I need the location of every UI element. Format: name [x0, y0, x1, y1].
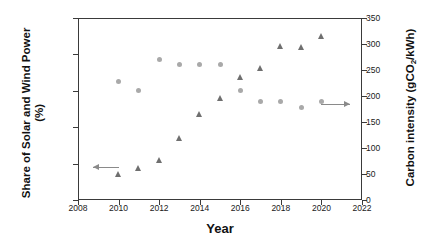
y-axis-left-tickmark — [73, 127, 78, 128]
x-axis-title: Year — [78, 222, 362, 237]
y-axis-right-tick-label: 300 — [366, 39, 406, 49]
x-axis-tickmark — [159, 200, 160, 205]
y-axis-right-tickmark — [362, 18, 367, 19]
y-axis-right-tickmark — [362, 96, 367, 97]
y-axis-right-tickmark — [362, 44, 367, 45]
data-point-triangle — [156, 157, 162, 163]
y-axis-left-title-line1: Share of Solar and Wind Power — [20, 28, 32, 199]
y-axis-right-tickmark — [362, 70, 367, 71]
x-axis-tickmark — [321, 200, 322, 205]
data-point-triangle — [318, 33, 324, 39]
right-axis-pointer-head — [344, 101, 350, 107]
data-point-triangle — [196, 111, 202, 117]
y-axis-left-tickmark — [73, 164, 78, 165]
y-axis-left-title-line2: (%) — [33, 18, 46, 208]
data-point-circle — [116, 79, 121, 84]
left-axis-pointer-head — [93, 164, 99, 170]
y-axis-right-title-subscript: 2 — [409, 60, 418, 64]
data-point-circle — [299, 105, 304, 110]
data-point-triangle — [257, 65, 263, 71]
data-point-triangle — [135, 165, 141, 171]
y-axis-right-tick-label: 200 — [366, 91, 406, 101]
data-point-triangle — [277, 43, 283, 49]
y-axis-left-tickmark — [73, 54, 78, 55]
data-point-triangle — [115, 171, 121, 177]
x-axis-tickmark — [119, 200, 120, 205]
y-axis-left-tickmark — [73, 91, 78, 92]
x-axis-tickmark — [281, 200, 282, 205]
y-axis-left-title: Share of Solar and Wind Power (%) — [20, 18, 46, 208]
y-axis-left-tickmark — [73, 18, 78, 19]
y-axis-right-tick-label: 150 — [366, 117, 406, 127]
data-point-triangle — [176, 135, 182, 141]
data-point-triangle — [217, 95, 223, 101]
data-point-triangle — [298, 44, 304, 50]
data-point-triangle — [237, 74, 243, 80]
y-axis-right-tick-label: 250 — [366, 65, 406, 75]
y-axis-right-tickmark — [362, 148, 367, 149]
y-axis-right-tickmark — [362, 174, 367, 175]
x-axis-tickmark — [240, 200, 241, 205]
data-point-circle — [218, 62, 223, 67]
y-axis-right-tick-label: 50 — [366, 169, 406, 179]
chart-figure: Share of Solar and Wind Power (%) Carbon… — [0, 0, 431, 246]
y-axis-right-tickmark — [362, 122, 367, 123]
x-axis-tickmark — [362, 200, 363, 205]
y-axis-right-tick-label: 350 — [366, 13, 406, 23]
data-point-circle — [157, 57, 162, 62]
x-axis-tickmark — [200, 200, 201, 205]
y-axis-right-tick-label: 100 — [366, 143, 406, 153]
data-point-circle — [258, 99, 263, 104]
x-axis-tickmark — [78, 200, 79, 205]
